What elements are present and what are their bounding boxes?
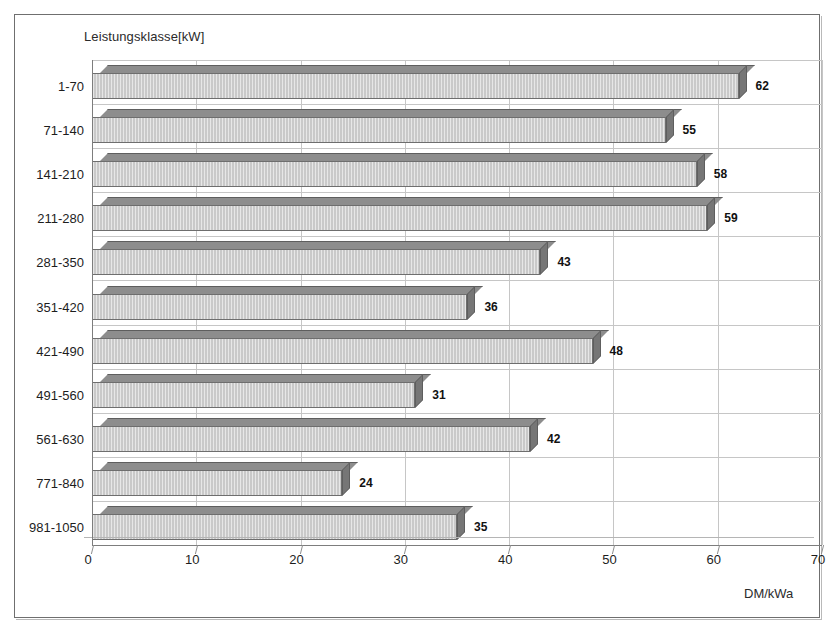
bar — [92, 109, 666, 135]
bar — [92, 506, 457, 532]
value-tick-label: 30 — [394, 552, 408, 567]
gridline-horizontal — [92, 369, 822, 370]
gridline-horizontal — [92, 148, 822, 149]
bar-top-face — [100, 65, 755, 73]
category-tick-label: 281-350 — [36, 255, 84, 270]
gridline-horizontal — [92, 192, 822, 193]
bar-top-face — [100, 109, 682, 117]
bar-side-face — [457, 506, 465, 540]
bar — [92, 65, 739, 91]
bar-front-face — [92, 117, 666, 143]
bar-side-face — [697, 153, 705, 187]
bar-top-face — [100, 286, 483, 294]
bar-top-face — [100, 418, 546, 426]
bar-front-face — [92, 470, 342, 496]
bar-value-label: 55 — [683, 123, 696, 137]
bar-value-label: 59 — [724, 211, 737, 225]
gridline-horizontal — [92, 325, 822, 326]
gridline-horizontal — [92, 413, 822, 414]
bar-side-face — [467, 286, 475, 320]
gridline-vertical — [718, 60, 719, 545]
plot-area: 6255585943364831422435 — [92, 60, 822, 545]
bar — [92, 374, 415, 400]
category-tick-label: 491-560 — [36, 387, 84, 402]
gridline-horizontal — [92, 236, 822, 237]
bar-value-label: 62 — [756, 79, 769, 93]
bar — [92, 197, 707, 223]
bar-top-face — [100, 197, 723, 205]
bar-value-label: 43 — [557, 255, 570, 269]
category-tick-label: 561-630 — [36, 431, 84, 446]
bar-value-label: 36 — [484, 300, 497, 314]
bar-top-face — [100, 462, 358, 470]
gridline-vertical — [822, 60, 823, 545]
bar-front-face — [92, 161, 697, 187]
value-tick-label: 20 — [289, 552, 303, 567]
bar-top-face — [100, 241, 556, 249]
gridline-horizontal — [92, 280, 822, 281]
bar-side-face — [342, 462, 350, 496]
category-axis-title: Leistungsklasse[kW] — [84, 29, 204, 44]
category-tick-label: 141-210 — [36, 167, 84, 182]
bar-top-face — [100, 153, 713, 161]
bar-front-face — [92, 73, 739, 99]
category-tick-label: 981-1050 — [29, 519, 84, 534]
value-tick-label: 60 — [706, 552, 720, 567]
bar-value-label: 31 — [432, 388, 445, 402]
bar-side-face — [530, 418, 538, 452]
bar-front-face — [92, 294, 467, 320]
value-tick-label: 70 — [811, 552, 825, 567]
bar-front-face — [92, 382, 415, 408]
value-tick-label: 40 — [498, 552, 512, 567]
value-axis-back-line — [84, 537, 814, 538]
category-tick-label: 71-140 — [44, 123, 84, 138]
bar-top-face — [100, 330, 609, 338]
bar — [92, 418, 530, 444]
bar — [92, 153, 697, 179]
bar-side-face — [540, 241, 548, 275]
category-tick-label: 421-490 — [36, 343, 84, 358]
bar-front-face — [92, 205, 707, 231]
bar-value-label: 48 — [610, 344, 623, 358]
bar-value-label: 58 — [714, 167, 727, 181]
bar-front-face — [92, 338, 593, 364]
gridline-horizontal — [92, 501, 822, 502]
value-axis-line — [92, 545, 822, 546]
value-tick-label: 10 — [185, 552, 199, 567]
bar-value-label: 35 — [474, 520, 487, 534]
bar — [92, 330, 593, 356]
bar-value-label: 42 — [547, 432, 560, 446]
bar-top-face — [100, 374, 431, 382]
bar — [92, 462, 342, 488]
bar-side-face — [707, 197, 715, 231]
gridline-horizontal — [92, 60, 822, 61]
category-tick-label: 211-280 — [37, 211, 84, 226]
gridline-horizontal — [92, 457, 822, 458]
category-tick-label: 351-420 — [36, 299, 84, 314]
gridline-horizontal — [92, 104, 822, 105]
category-tick-label: 1-70 — [58, 79, 84, 94]
bar — [92, 241, 540, 267]
category-axis-line — [92, 60, 93, 545]
bar-front-face — [92, 249, 540, 275]
category-axis: 1-7071-140141-210211-280281-350351-42042… — [0, 60, 84, 545]
bar — [92, 286, 467, 312]
bar-value-label: 24 — [359, 476, 372, 490]
bar-front-face — [92, 426, 530, 452]
chart-screenshot: Leistungsklasse[kW] DM/kWa 1-7071-140141… — [0, 0, 836, 639]
value-axis-title: DM/kWa — [744, 586, 793, 601]
bar-top-face — [100, 506, 473, 514]
category-tick-label: 771-840 — [36, 475, 84, 490]
bar-side-face — [415, 374, 423, 408]
value-tick-label: 50 — [602, 552, 616, 567]
value-tick-label: 0 — [84, 552, 91, 567]
